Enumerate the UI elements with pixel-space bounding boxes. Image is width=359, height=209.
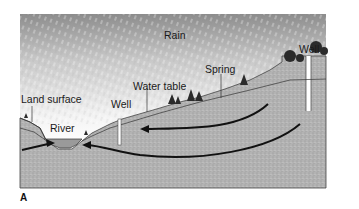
panel-label: A	[20, 192, 27, 203]
well-right-label: Well	[299, 44, 319, 55]
well-right-shaft	[306, 56, 311, 111]
water-table-label: Water table	[133, 81, 186, 92]
well-left-shaft	[118, 119, 121, 145]
river-label: River	[50, 123, 75, 134]
land-surface-label: Land surface	[21, 94, 82, 105]
well-left-label: Well	[111, 99, 131, 110]
spring-label: Spring	[205, 64, 235, 75]
groundwater-diagram: Rain Well Spring Water table Well Land s…	[0, 0, 359, 209]
rain-label: Rain	[164, 30, 186, 41]
